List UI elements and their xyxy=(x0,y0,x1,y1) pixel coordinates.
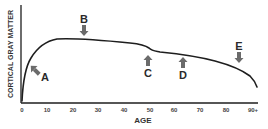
x-axis-label: AGE xyxy=(134,116,152,125)
y-axis-label: CORTICAL GRAY MATTER xyxy=(7,10,14,98)
x-tick-labels: 0 10 20 30 40 50 60 70 80 90+ xyxy=(20,107,258,113)
arrow-d-icon xyxy=(179,57,188,68)
marker-label-d: D xyxy=(179,69,187,81)
marker-label-c: C xyxy=(144,67,152,79)
marker-label-a: A xyxy=(41,71,49,83)
x-tick-label: 10 xyxy=(44,107,51,113)
arrow-c-icon xyxy=(144,55,153,66)
x-tick-label: 70 xyxy=(197,107,204,113)
gray-matter-chart: CORTICAL GRAY MATTER 0 10 20 30 40 50 60… xyxy=(0,0,268,129)
x-tick-label: 40 xyxy=(121,107,128,113)
arrow-b-icon xyxy=(80,25,89,36)
x-tick-label: 50 xyxy=(147,107,154,113)
x-tick-label: 60 xyxy=(171,107,178,113)
x-tick-label: 0 xyxy=(20,107,24,113)
x-tick-label: 90+ xyxy=(248,107,259,113)
x-tick-label: 30 xyxy=(95,107,102,113)
marker-label-b: B xyxy=(80,13,88,25)
marker-label-e: E xyxy=(235,40,242,52)
gray-matter-curve xyxy=(22,39,257,101)
x-tick-label: 20 xyxy=(70,107,77,113)
arrow-e-icon xyxy=(235,52,244,63)
x-tick-label: 80 xyxy=(223,107,230,113)
